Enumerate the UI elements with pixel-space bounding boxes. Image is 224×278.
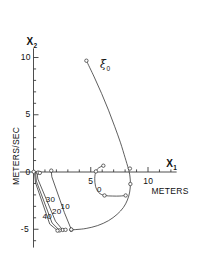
y-tick-label-5: 5	[25, 109, 30, 119]
data-point-marker-9	[70, 228, 73, 231]
x-axis-name: X1	[166, 158, 177, 171]
xi-subscript: 0	[106, 65, 110, 72]
data-point-marker-10	[32, 170, 35, 173]
data-point-marker-0	[85, 59, 88, 62]
y-tick-label-0: 0	[25, 167, 30, 177]
trajectory-phase-plot: X1 METERS X2 METERS/SEC ξ0 0 10 20 30 40…	[0, 0, 224, 278]
x-tick-label-10: 10	[143, 176, 153, 186]
data-point-marker-3	[102, 164, 105, 167]
curve-label-0: 0	[97, 185, 102, 194]
data-point-marker-8	[50, 169, 53, 172]
data-series-group	[34, 61, 131, 231]
data-point-marker-12	[38, 171, 41, 174]
y-tick-label-10: 10	[21, 52, 31, 62]
curve-label-20: 20	[52, 207, 62, 216]
x-tick-label-5: 5	[88, 176, 93, 186]
x-axis-name-subscript: 1	[173, 164, 177, 171]
curve-label-30: 30	[46, 195, 56, 204]
curve-label-40: 40	[42, 212, 52, 221]
data-point-marker-7	[128, 167, 131, 170]
data-point-marker-1	[129, 182, 132, 185]
series-main-trajectory	[71, 61, 130, 230]
y-tick-label-neg5: -5	[21, 224, 29, 234]
y-axis-name: X2	[27, 36, 38, 49]
data-point-marker-6	[124, 194, 127, 197]
data-point-marker-15	[56, 229, 59, 232]
y-axis-name-subscript: 2	[33, 42, 37, 49]
data-point-markers	[32, 59, 132, 232]
data-point-marker-4	[94, 170, 97, 173]
x-axis-unit-label: METERS	[151, 186, 188, 196]
data-point-marker-16	[64, 228, 67, 231]
y-axis-unit-label: METERS/SEC	[11, 126, 21, 184]
initial-state-label: ξ0	[100, 58, 110, 72]
data-point-marker-5	[103, 194, 106, 197]
